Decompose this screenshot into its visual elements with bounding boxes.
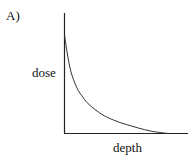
dose-curve [65,35,169,134]
plot-area [0,0,195,161]
dose-depth-figure: A) dose depth [0,0,195,161]
